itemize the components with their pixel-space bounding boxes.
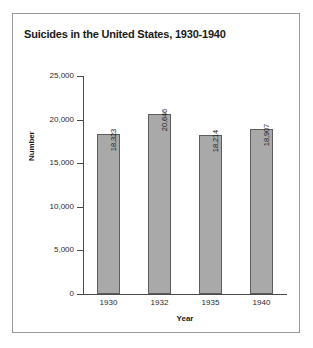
x-axis-tick-label: 1935 (189, 298, 233, 308)
y-axis-tick-label: 10,000 (28, 203, 74, 211)
bar: 18,323 (97, 134, 120, 294)
bar: 18,907 (250, 129, 273, 294)
x-axis-tick-labels: 1930193219351940 (83, 298, 287, 310)
bar-value-label: 20,646 (160, 109, 169, 131)
chart-title: Suicides in the United States, 1930-1940 (24, 28, 289, 40)
bar: 20,646 (148, 114, 171, 294)
y-axis-tick-label: 0 (28, 290, 74, 298)
y-axis-tick-label-holder: 0 (21, 290, 74, 298)
bar-value-label: 18,323 (109, 129, 118, 151)
y-axis-title: Number (27, 131, 36, 161)
chart-figure-frame: Suicides in the United States, 1930-1940… (12, 13, 300, 333)
bar: 18,214 (199, 135, 222, 294)
bar-value-label: 18,907 (262, 124, 271, 146)
y-axis-tick-label-holder: 25,000 (21, 72, 74, 80)
bars-layer: 18,32320,64618,21418,907 (83, 76, 287, 294)
bar-value-label: 18,214 (211, 130, 220, 152)
x-axis-line (83, 294, 287, 295)
y-axis-tick-label-holder: 20,000 (21, 116, 74, 124)
y-axis-tick-label-holder: 10,000 (21, 203, 74, 211)
x-axis-title: Year (83, 314, 287, 323)
y-axis-tick-label: 25,000 (28, 72, 74, 80)
x-axis-tick-label: 1930 (87, 298, 131, 308)
x-axis-tick-label: 1932 (138, 298, 182, 308)
y-axis-tick-label-holder: 5,000 (21, 246, 74, 254)
y-axis-tick-label: 5,000 (28, 246, 74, 254)
y-axis-tick-label: 20,000 (28, 116, 74, 124)
x-axis-tick-label: 1940 (240, 298, 284, 308)
